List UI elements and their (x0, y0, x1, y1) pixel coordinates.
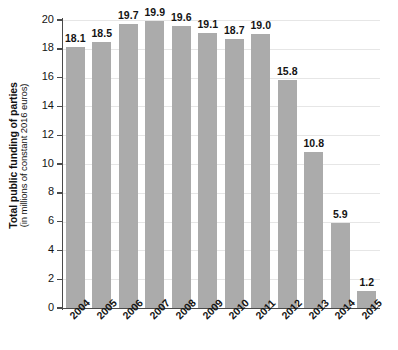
bar-value-label: 10.8 (304, 137, 324, 149)
bar[interactable] (119, 24, 138, 308)
y-axis-title-main: Total public funding of parties (7, 82, 19, 229)
bar-value-label: 19.1 (198, 18, 218, 30)
bar[interactable] (331, 223, 350, 308)
bar[interactable] (172, 26, 191, 308)
bar[interactable] (304, 152, 323, 308)
bar-value-label: 19.6 (171, 11, 191, 23)
bar-value-label: 5.9 (333, 208, 348, 220)
y-axis-tick-mark (57, 279, 62, 280)
bar-value-label: 19.7 (118, 9, 138, 21)
y-axis-tick-label: 14 (42, 99, 54, 111)
y-axis-title: Total public funding of parties (in mill… (0, 0, 36, 310)
y-axis-tick-label: 4 (48, 243, 54, 255)
bar-value-label: 19.0 (251, 19, 271, 31)
plot-area: 18.118.519.719.919.619.118.719.015.810.8… (62, 20, 380, 308)
bar-value-label: 18.5 (92, 27, 112, 39)
y-axis-tick-label: 8 (48, 185, 54, 197)
gridline (62, 20, 380, 21)
bar-value-label: 18.1 (65, 32, 85, 44)
y-axis-tick-mark (57, 106, 62, 107)
y-axis-tick-mark (57, 77, 62, 78)
y-axis-tick-label: 20 (42, 13, 54, 25)
y-axis-tick-label: 0 (48, 301, 54, 313)
y-axis-title-sub: (in millions of constant 2016 euros) (19, 82, 30, 229)
bar-value-label: 15.8 (277, 65, 297, 77)
chart-figure: Total public funding of parties (in mill… (0, 0, 398, 350)
y-axis-line (62, 18, 63, 310)
bar[interactable] (251, 34, 270, 308)
bar[interactable] (225, 39, 244, 308)
y-axis-tick-mark (57, 221, 62, 222)
y-axis-tick-label: 10 (42, 157, 54, 169)
y-axis-tick-mark (57, 135, 62, 136)
y-axis-tick-label: 2 (48, 272, 54, 284)
y-axis-tick-mark (57, 250, 62, 251)
bar[interactable] (278, 80, 297, 308)
bar-value-label: 18.7 (224, 24, 244, 36)
bar-value-label: 19.9 (145, 6, 165, 18)
y-axis-tick-mark (57, 192, 62, 193)
bar-value-label: 1.2 (359, 276, 374, 288)
y-axis-tick-label: 16 (42, 70, 54, 82)
bar[interactable] (92, 42, 111, 308)
y-axis-tick-mark (57, 19, 62, 20)
bar[interactable] (66, 47, 85, 308)
bar[interactable] (198, 33, 217, 308)
y-axis-tick-mark (57, 48, 62, 49)
y-axis-tick-label: 12 (42, 128, 54, 140)
bar[interactable] (145, 21, 164, 308)
y-axis-tick-mark (57, 307, 62, 308)
y-axis-tick-mark (57, 163, 62, 164)
y-axis-tick-label: 6 (48, 214, 54, 226)
y-axis-tick-label: 18 (42, 41, 54, 53)
